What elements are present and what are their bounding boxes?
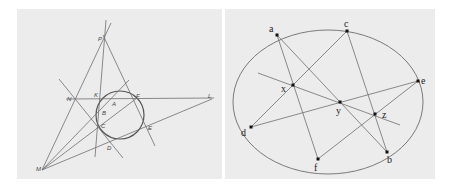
chord-a-f xyxy=(277,35,318,159)
chord-c-d xyxy=(251,31,347,127)
line-P-M xyxy=(42,23,111,170)
label-P: P xyxy=(98,36,102,42)
label-L: L xyxy=(208,93,211,99)
left-labels: P N K A F L B C E D M xyxy=(36,36,211,172)
label-c: c xyxy=(344,18,349,29)
conic-ellipse xyxy=(233,30,423,174)
label-e: e xyxy=(421,75,426,86)
line-N-D xyxy=(59,79,123,158)
point-d xyxy=(250,126,253,129)
point-c xyxy=(346,30,349,33)
label-x: x xyxy=(281,83,286,94)
label-A: A xyxy=(111,101,116,107)
point-e xyxy=(417,80,420,83)
label-z: z xyxy=(382,109,387,120)
label-E: E xyxy=(148,125,153,131)
label-f: f xyxy=(314,162,318,173)
line-NL xyxy=(66,98,214,99)
label-C: C xyxy=(101,123,106,129)
point-f xyxy=(317,158,320,161)
right-points xyxy=(250,30,420,161)
label-N: N xyxy=(67,96,72,102)
geometry-diagrams: P N K A F L B C E D M xyxy=(0,0,450,186)
point-z xyxy=(374,113,377,116)
label-b: b xyxy=(387,154,392,165)
label-a: a xyxy=(269,23,274,34)
point-y xyxy=(339,101,342,104)
label-y: y xyxy=(336,105,341,116)
label-F: F xyxy=(136,93,140,99)
chord-e-d xyxy=(251,81,418,127)
line-M-F xyxy=(42,98,137,170)
label-M: M xyxy=(36,166,41,172)
label-D: D xyxy=(107,145,112,151)
label-d: d xyxy=(241,127,246,138)
chord-a-b xyxy=(277,35,387,152)
point-a xyxy=(276,34,279,37)
line-M-A xyxy=(42,80,129,170)
label-B: B xyxy=(102,110,106,116)
point-x xyxy=(292,84,295,87)
line-M-L xyxy=(42,99,212,170)
right-figure: a c e b f d x y z xyxy=(233,18,426,174)
chord-e-f xyxy=(318,81,418,159)
left-figure: P N K A F L B C E D M xyxy=(36,20,214,172)
label-K: K xyxy=(94,92,99,98)
